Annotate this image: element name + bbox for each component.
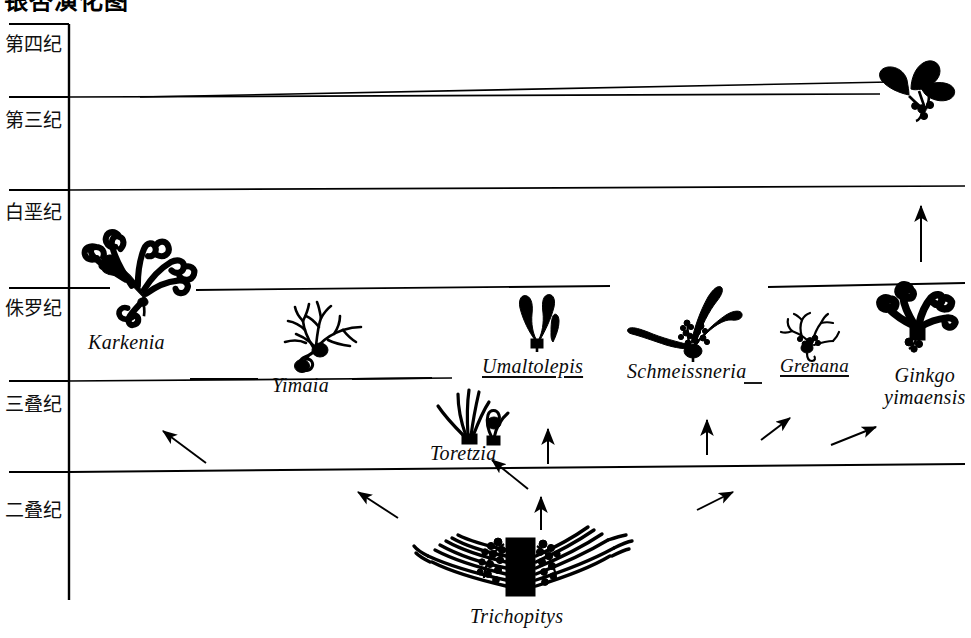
- period-label-cretaceous: 白垩纪: [4, 200, 62, 225]
- period-label-jurassic: 侏罗纪: [4, 296, 62, 321]
- taxon-label-ginkgo-yimaensis: Ginkgo yimaensis: [884, 364, 966, 408]
- period-label-quaternary: 第四纪: [4, 32, 62, 57]
- taxon-label-karkenia: Karkenia: [88, 332, 165, 353]
- arrow-to-toretzia-lower: [358, 492, 398, 518]
- range-karkenia-right: [196, 286, 610, 290]
- taxon-label-umaltolepis: Umaltolepis: [482, 356, 583, 377]
- boundary-triassic-permian: [69, 464, 965, 472]
- arrow-to-grenana-lower: [697, 492, 733, 510]
- plant-schmeissneria-illustration: [628, 286, 743, 362]
- taxon-label-grenana: Grenana: [780, 355, 849, 376]
- plant-umaltolepis-illustration: [519, 295, 559, 352]
- plant-trichopitys-illustration: [414, 527, 632, 596]
- range-yimaia-right: [352, 378, 432, 379]
- period-label-triassic: 三叠纪: [4, 392, 62, 417]
- period-label-tertiary: 第三纪: [4, 108, 62, 133]
- range-upper-jurassic-right: [768, 283, 965, 287]
- arrow-to-yimaia: [163, 431, 206, 463]
- taxon-label-toretzia: Toretzia: [430, 443, 497, 464]
- plant-grenana-illustration: [781, 313, 839, 361]
- plant-yimaia-illustration: [285, 302, 361, 373]
- arrow-to-toretzia: [492, 460, 528, 489]
- period-boundary-lines: [69, 94, 965, 472]
- taxon-label-schmeissneria: Schmeissneria: [627, 361, 746, 382]
- arrow-to-grenana: [761, 418, 790, 440]
- plant-karkenia-illustration: [85, 232, 195, 325]
- boundary-tertiary-cretaceous: [69, 186, 965, 190]
- plant-ginkgo-yimaensis-illustration: [880, 285, 955, 352]
- plant-ginkgo-biloba-illustration: [880, 61, 955, 121]
- plant-toretzia-illustration: [438, 390, 508, 445]
- arrow-to-ginkgo-yimaensis: [831, 427, 876, 445]
- figure-canvas: 银杏演化图: [0, 0, 971, 638]
- range-segments: [69, 82, 965, 383]
- taxon-label-trichopitys: Trichopitys: [470, 606, 563, 627]
- diagram-svg: [0, 0, 971, 638]
- period-label-permian: 二叠纪: [4, 498, 62, 523]
- taxon-label-yimaia: Yimaia: [272, 375, 329, 396]
